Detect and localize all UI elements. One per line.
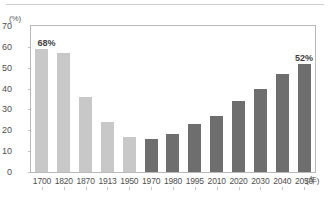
x-axis-unit-label: (年)	[306, 176, 319, 186]
bar-1913	[101, 122, 114, 172]
x-axis-slot: 1913	[97, 176, 119, 190]
x-axis-tick-label: 2030	[249, 176, 271, 186]
bar-2050: 52%	[298, 64, 311, 172]
bar-1995	[188, 124, 201, 172]
x-axis-tick-label: 1820	[53, 176, 75, 186]
x-axis-tick-mark	[304, 187, 305, 190]
x-axis-tick-mark	[42, 187, 43, 190]
y-axis-tick-label: 20	[2, 126, 12, 135]
bar-slot	[118, 26, 140, 172]
x-axis-tick-mark	[151, 187, 152, 190]
x-axis-slot: 2010	[206, 176, 228, 190]
bar-slot	[162, 26, 184, 172]
bar-slot: 52%	[293, 26, 315, 172]
bar-1950	[123, 137, 136, 172]
y-axis-tick-label: 60	[2, 42, 12, 51]
bar-slot: 68%	[31, 26, 53, 172]
x-axis-slot: 2030	[249, 176, 271, 190]
x-axis-tick-label: 1995	[184, 176, 206, 186]
y-axis-tick-label: 10	[2, 147, 12, 156]
x-axis-tick-label: 2020	[228, 176, 250, 186]
x-axis-slot: 1980	[162, 176, 184, 190]
bar-slot	[228, 26, 250, 172]
bar-1820	[57, 53, 70, 172]
x-axis-tick-mark	[217, 187, 218, 190]
x-axis-tick-mark	[239, 187, 240, 190]
x-axis-slot: 2040	[271, 176, 293, 190]
y-axis-tick-label: 70	[2, 22, 12, 31]
bar-2030	[254, 89, 267, 172]
y-axis-ticks: 706050403020100	[0, 0, 30, 206]
x-axis-tick-mark	[64, 187, 65, 190]
x-axis-tick-mark	[282, 187, 283, 190]
bar-slot	[140, 26, 162, 172]
chart-figure: (%) 706050403020100 68%52% 1700182018701…	[0, 0, 330, 206]
x-axis-tick-label: 1950	[118, 176, 140, 186]
x-axis-tick-label: 1970	[140, 176, 162, 186]
bar-1870	[79, 97, 92, 172]
x-axis-tick-mark	[107, 187, 108, 190]
x-axis-tick-mark	[260, 187, 261, 190]
top-divider-rule	[6, 4, 324, 5]
y-axis-tick-label: 30	[2, 105, 12, 114]
bar-1700: 68%	[35, 49, 48, 172]
bar-series: 68%52%	[31, 26, 315, 172]
bar-slot	[184, 26, 206, 172]
bar-1980	[166, 134, 179, 172]
bar-2010	[210, 116, 223, 172]
bar-value-label-2050: 52%	[295, 54, 313, 63]
bar-slot	[271, 26, 293, 172]
bar-slot	[249, 26, 271, 172]
bar-slot	[97, 26, 119, 172]
x-axis-tick-label: 1913	[97, 176, 119, 186]
x-axis-tick-label: 2010	[206, 176, 228, 186]
plot-area: 68%52%	[31, 26, 315, 172]
x-axis-tick-mark	[173, 187, 174, 190]
x-axis-slot: 2020	[228, 176, 250, 190]
bar-2020	[232, 101, 245, 172]
y-axis-tick-label: 0	[7, 168, 12, 177]
x-axis-tick-label: 1980	[162, 176, 184, 186]
bar-2040	[276, 74, 289, 172]
y-axis-tick-label: 40	[2, 84, 12, 93]
x-axis-tick-mark	[195, 187, 196, 190]
x-axis-tick-label: 1870	[75, 176, 97, 186]
x-axis-labels: 1700182018701913195019701980199520102020…	[31, 176, 315, 190]
x-axis-slot: 1970	[140, 176, 162, 190]
bar-slot	[75, 26, 97, 172]
x-axis-slot: 1700	[31, 176, 53, 190]
x-axis-tick-label: 2040	[271, 176, 293, 186]
bar-slot	[206, 26, 228, 172]
bar-1970	[145, 139, 158, 172]
x-axis-slot: 1950	[118, 176, 140, 190]
x-axis-slot: 1820	[53, 176, 75, 190]
x-axis-tick-label: 1700	[31, 176, 53, 186]
x-axis-slot: 1995	[184, 176, 206, 190]
x-axis-tick-mark	[129, 187, 130, 190]
x-axis-tick-mark	[86, 187, 87, 190]
y-axis-tick-label: 50	[2, 63, 12, 72]
x-axis-slot: 1870	[75, 176, 97, 190]
bar-slot	[53, 26, 75, 172]
